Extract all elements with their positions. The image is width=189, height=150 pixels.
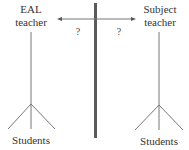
left-branch-left [8, 104, 31, 129]
subject-teacher-label: Subject teacher [144, 3, 177, 29]
left-question-mark: ? [76, 26, 80, 37]
right-students-label: Students [140, 135, 178, 148]
subject-teacher-line2: teacher [144, 16, 177, 29]
subject-teacher-line1: Subject [144, 3, 177, 16]
right-question-mark: ? [117, 26, 121, 37]
right-branch-left [135, 105, 159, 130]
arrowhead-right-icon [131, 17, 136, 21]
central-divider [94, 3, 97, 138]
eal-teacher-line1: EAL [15, 3, 47, 16]
left-branch-right [31, 104, 55, 129]
diagram-canvas: EAL teacher Students Subject teacher Stu… [0, 0, 189, 150]
eal-teacher-label: EAL teacher [15, 3, 47, 29]
left-students-label: Students [12, 134, 50, 147]
arrowhead-left-icon [57, 17, 62, 21]
right-branch-right [159, 105, 183, 130]
eal-teacher-line2: teacher [15, 16, 47, 29]
